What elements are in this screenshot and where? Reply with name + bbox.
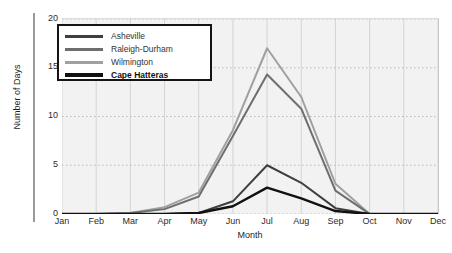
y-tick-label: 15 [40,62,58,71]
chart-screenshot: 05101520 Number of Days JanFebMarAprMayJ… [0,0,452,253]
legend-label: Asheville [111,31,145,41]
x-tick-label: Jan [45,216,79,226]
legend-swatch-icon [65,35,103,38]
legend-item[interactable]: Asheville [65,30,210,42]
x-tick-label: Oct [353,216,387,226]
x-tick-label: Dec [421,216,452,226]
x-axis-title: Month [62,230,438,240]
y-tick-label: 5 [40,160,58,169]
legend-item[interactable]: Raleigh-Durham [65,43,210,55]
legend-label: Raleigh-Durham [111,44,173,54]
legend-item[interactable]: Wilmington [65,56,210,68]
series-line-asheville [62,165,438,214]
series-line-raleigh-durham [62,75,438,214]
x-tick-label: Jun [216,216,250,226]
x-tick-label: Mar [113,216,147,226]
x-tick-label: Apr [148,216,182,226]
x-tick-label: Aug [284,216,318,226]
legend-label: Cape Hatteras [111,70,168,80]
x-tick-label: May [182,216,216,226]
y-tick-label: 10 [40,111,58,120]
legend-label: Wilmington [111,57,153,67]
y-tick-label: 20 [40,14,58,23]
chart-legend: AshevilleRaleigh-DurhamWilmingtonCape Ha… [57,24,212,81]
x-tick-label: Sep [318,216,352,226]
series-line-cape-hatteras [62,188,438,214]
legend-item[interactable]: Cape Hatteras [65,69,210,81]
legend-swatch-icon [65,61,103,64]
legend-swatch-icon [65,48,103,51]
x-axis-tick-labels: JanFebMarAprMayJunJulAugSepOctNovDec [62,216,438,230]
y-axis-title: Number of Days [12,47,22,147]
x-tick-label: Feb [79,216,113,226]
legend-swatch-icon [65,73,103,77]
x-tick-label: Jul [250,216,284,226]
x-tick-label: Nov [387,216,421,226]
left-axis-rule [33,13,35,222]
